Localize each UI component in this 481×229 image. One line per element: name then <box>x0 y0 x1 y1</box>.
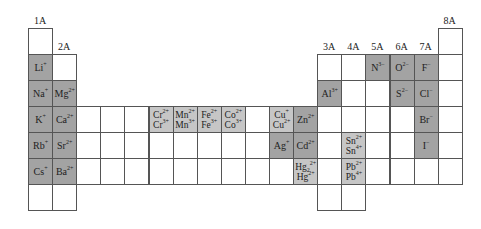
ion-label: O2− <box>395 63 409 73</box>
empty-cell <box>173 158 198 185</box>
ion-cell-hg: Hg22+Hg2+ <box>293 158 318 185</box>
ion-cell-al: Al3+ <box>317 80 342 107</box>
ion-cell-i: I− <box>414 132 439 159</box>
ion-label: Al3+ <box>322 89 338 99</box>
ion-cell-k: K+ <box>28 106 53 133</box>
empty-cell <box>149 132 174 159</box>
empty-cell <box>438 54 463 81</box>
group-label-4a: 4A <box>341 42 365 52</box>
empty-cell <box>341 184 366 211</box>
empty-cell <box>149 158 174 185</box>
empty-cell <box>438 28 463 55</box>
empty-cell <box>365 106 390 133</box>
empty-cell <box>390 158 415 185</box>
ion-label: Br− <box>419 115 432 125</box>
ion-label: S2− <box>396 89 408 99</box>
ion-label: Li+ <box>34 63 46 73</box>
empty-cell <box>438 80 463 107</box>
ion-label: Cu2+ <box>273 120 290 130</box>
ion-label: Fe3+ <box>201 120 217 130</box>
empty-cell <box>438 132 463 159</box>
ion-label: Ba2+ <box>56 167 74 177</box>
empty-cell <box>245 132 270 159</box>
ion-cell-zn: Zn2+ <box>293 106 318 133</box>
ion-label: Zn2+ <box>297 115 315 125</box>
ion-cell-na: Na+ <box>28 80 53 107</box>
empty-cell <box>317 184 342 211</box>
ion-label: Cr3+ <box>153 120 169 130</box>
empty-cell <box>341 106 366 133</box>
ion-label: Cs+ <box>34 167 48 177</box>
empty-cell <box>124 106 149 133</box>
periodic-table-ions-diagram: 1A2A3A4A5A6A7A8ALi+N3−O2−F−Na+Mg2+Al3+S2… <box>0 0 481 229</box>
group-label-5a: 5A <box>365 42 389 52</box>
empty-cell <box>414 158 439 185</box>
ion-cell-li: Li+ <box>28 54 53 81</box>
empty-cell <box>124 158 149 185</box>
group-label-8a: 8A <box>438 16 462 26</box>
ion-label: N3− <box>371 63 385 73</box>
ion-cell-fe: Fe2+Fe3+ <box>197 106 222 133</box>
ion-cell-mg: Mg2+ <box>52 80 77 107</box>
ion-label: Cl− <box>420 89 433 99</box>
empty-cell <box>76 106 101 133</box>
empty-cell <box>28 28 53 55</box>
empty-cell <box>390 132 415 159</box>
empty-cell <box>245 106 270 133</box>
ion-cell-cs: Cs+ <box>28 158 53 185</box>
ion-label: Pb4+ <box>346 172 362 182</box>
ion-cell-n: N3− <box>365 54 390 81</box>
empty-cell <box>317 54 342 81</box>
empty-cell <box>317 132 342 159</box>
group-label-3a: 3A <box>317 42 341 52</box>
empty-cell <box>221 132 246 159</box>
ion-cell-f: F− <box>414 54 439 81</box>
ion-cell-ca: Ca2+ <box>52 106 77 133</box>
empty-cell <box>390 106 415 133</box>
ion-label: Cd2+ <box>297 141 315 151</box>
empty-cell <box>124 132 149 159</box>
ion-cell-cu: Cu+Cu2+ <box>269 106 294 133</box>
empty-cell <box>341 80 366 107</box>
empty-cell <box>317 106 342 133</box>
empty-cell <box>221 158 246 185</box>
ion-cell-s: S2− <box>390 80 415 107</box>
empty-cell <box>197 158 222 185</box>
ion-cell-ba: Ba2+ <box>52 158 77 185</box>
empty-cell <box>197 132 222 159</box>
empty-cell <box>100 132 125 159</box>
ion-cell-cl: Cl− <box>414 80 439 107</box>
ion-label: F− <box>422 63 431 73</box>
ion-cell-cd: Cd2+ <box>293 132 318 159</box>
empty-cell <box>52 184 77 211</box>
ion-cell-ag: Ag+ <box>269 132 294 159</box>
ion-label: Co3+ <box>225 120 242 130</box>
ion-label: I− <box>423 141 430 151</box>
empty-cell <box>100 106 125 133</box>
ion-label: Hg2+ <box>297 172 315 182</box>
empty-cell <box>438 158 463 185</box>
ion-cell-o: O2− <box>390 54 415 81</box>
empty-cell <box>438 106 463 133</box>
group-label-7a: 7A <box>414 42 438 52</box>
ion-label: Ag+ <box>274 141 290 151</box>
ion-label: Rb+ <box>33 141 48 151</box>
ion-cell-co: Co2+Co3+ <box>221 106 246 133</box>
empty-cell <box>365 132 390 159</box>
empty-cell <box>365 80 390 107</box>
ion-label: Sn4+ <box>346 146 362 156</box>
empty-cell <box>341 54 366 81</box>
ion-cell-rb: Rb+ <box>28 132 53 159</box>
empty-cell <box>269 158 294 185</box>
ion-label: Sr2+ <box>57 141 72 151</box>
empty-cell <box>28 184 53 211</box>
empty-cell <box>52 54 77 81</box>
ion-label: Na+ <box>33 89 48 99</box>
empty-cell <box>245 158 270 185</box>
empty-cell <box>173 132 198 159</box>
group-label-6a: 6A <box>390 42 414 52</box>
ion-cell-mn: Mn2+Mn3+ <box>173 106 198 133</box>
ion-cell-sn: Sn2+Sn4+ <box>341 132 366 159</box>
empty-cell <box>317 158 342 185</box>
empty-cell <box>76 158 101 185</box>
